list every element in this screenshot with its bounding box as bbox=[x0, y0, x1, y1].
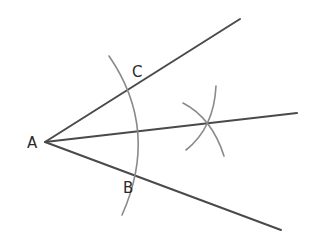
label-b: B bbox=[123, 179, 133, 197]
label-c: C bbox=[132, 63, 142, 81]
angle-bisector-diagram: A C B bbox=[0, 0, 313, 251]
label-a: A bbox=[27, 134, 38, 152]
arc-from-b bbox=[186, 86, 216, 150]
lower-ray bbox=[45, 142, 281, 230]
